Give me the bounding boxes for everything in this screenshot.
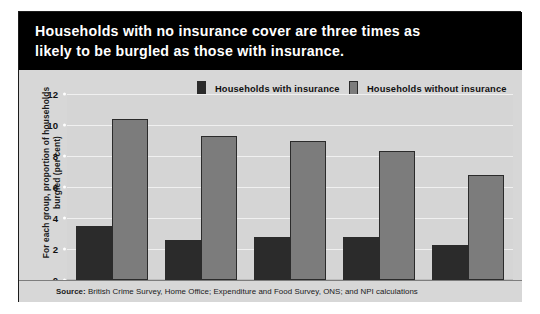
headline-line-2: likely to be burgled as those with insur…	[35, 41, 506, 61]
bar-group: 2002/03	[245, 94, 334, 280]
y-tick-dot	[63, 217, 66, 220]
bar-pair	[254, 141, 326, 281]
bar-pair	[432, 175, 504, 280]
source-body: British Crime Survey, Home Office; Expen…	[86, 287, 418, 296]
y-tick-dot	[63, 248, 66, 251]
bar-with-insurance[interactable]	[343, 237, 379, 280]
source-prefix: Source:	[56, 287, 86, 296]
bar-pair	[165, 136, 237, 280]
y-tick-label: 8	[53, 151, 58, 162]
bar-group: 2004/05	[424, 94, 513, 280]
headline-banner: Households with no insurance cover are t…	[19, 12, 522, 70]
y-tick-label: 10	[47, 120, 58, 131]
y-axis-title: For each group, proportion of households…	[41, 85, 62, 261]
bar-group: 1999	[67, 94, 156, 280]
chart-panel: Households with insurance Households wit…	[19, 70, 522, 302]
bar-pair	[76, 119, 148, 280]
bar-pair	[343, 151, 415, 280]
plot-area: 024681012 19992001/022002/032003/042004/…	[67, 94, 513, 280]
source-text: Source: British Crime Survey, Home Offic…	[56, 287, 418, 296]
y-tick-dot	[63, 155, 66, 158]
y-tick-label: 2	[53, 244, 58, 255]
y-tick-label: 12	[47, 89, 58, 100]
bar-without-insurance[interactable]	[379, 151, 415, 280]
bar-with-insurance[interactable]	[254, 237, 290, 280]
bar-without-insurance[interactable]	[468, 175, 504, 280]
legend-label-with-insurance: Households with insurance	[215, 84, 340, 94]
bar-with-insurance[interactable]	[76, 226, 112, 280]
bar-group: 2003/04	[335, 94, 424, 280]
headline-line-1: Households with no insurance cover are t…	[35, 21, 506, 41]
bar-without-insurance[interactable]	[112, 119, 148, 280]
bar-with-insurance[interactable]	[165, 240, 201, 280]
bar-group: 2001/02	[156, 94, 245, 280]
figure-container: Households with no insurance cover are t…	[18, 11, 521, 302]
y-tick-dot	[63, 93, 66, 96]
bar-without-insurance[interactable]	[201, 136, 237, 280]
y-tick-dot	[63, 124, 66, 127]
y-tick-label: 4	[53, 213, 58, 224]
y-tick-dot	[63, 186, 66, 189]
bar-without-insurance[interactable]	[290, 141, 326, 281]
bar-with-insurance[interactable]	[432, 245, 468, 280]
legend-label-without-insurance: Households without insurance	[367, 84, 507, 94]
y-tick-label: 6	[53, 182, 58, 193]
source-footer: Source: British Crime Survey, Home Offic…	[19, 280, 522, 301]
